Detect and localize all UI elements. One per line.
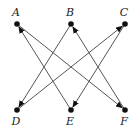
node-a-dot (14, 21, 20, 27)
edge-c-to-e-arrow (73, 24, 125, 107)
node-f-dot (122, 107, 128, 113)
node-c-label: C (120, 6, 129, 19)
node-d-label: D (11, 115, 21, 127)
node-f-label: F (119, 115, 128, 127)
edge-e-to-a-arrow (19, 27, 71, 110)
node-d-dot (14, 107, 20, 113)
edge-d-to-c-arrow (17, 26, 122, 110)
node-e-dot (68, 107, 74, 113)
edge-b-to-d-arrow (19, 24, 71, 107)
edge-f-to-b-arrow (73, 27, 125, 110)
node-b-dot (68, 21, 74, 27)
node-c-dot (122, 21, 128, 27)
edges-group (17, 24, 125, 110)
directed-graph: ABCDEF (0, 0, 138, 127)
node-b-label: B (65, 6, 74, 19)
node-e-label: E (65, 115, 74, 127)
edge-a-to-f-arrow (17, 24, 122, 108)
node-a-label: A (11, 6, 20, 19)
